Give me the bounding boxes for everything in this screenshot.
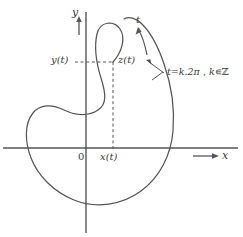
parametric-curve-figure: y x 0 t y(t) z(t) x(t) t=k.2π , k∊ℤ bbox=[0, 0, 243, 237]
annotation-prefix: t=k. bbox=[167, 66, 188, 77]
annotation-leader-line bbox=[146, 59, 164, 80]
curve-direction-arrow-icon bbox=[136, 27, 147, 55]
annotation-separator: , bbox=[200, 66, 209, 77]
y-projection-label: y(t) bbox=[51, 55, 68, 65]
y-axis-label: y bbox=[72, 7, 78, 18]
x-axis-label: x bbox=[222, 150, 228, 161]
x-projection-label: x(t) bbox=[100, 152, 117, 162]
origin-label: 0 bbox=[78, 152, 84, 162]
arrow-right-icon bbox=[193, 153, 219, 159]
figure-canvas bbox=[0, 0, 243, 237]
point-label: z(t) bbox=[118, 55, 135, 65]
parametric-curve-path bbox=[26, 18, 173, 205]
integer-set-symbol: ℤ bbox=[222, 66, 229, 77]
parameter-label: t bbox=[136, 15, 140, 25]
element-of-symbol: ∊ bbox=[215, 66, 222, 77]
period-annotation: t=k.2π , k∊ℤ bbox=[167, 67, 229, 77]
